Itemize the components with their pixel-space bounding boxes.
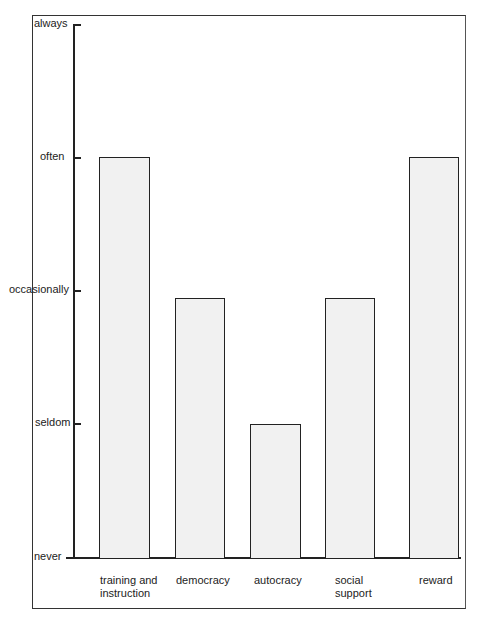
y-tick-seldom	[73, 423, 81, 425]
y-tick-always	[73, 24, 81, 26]
bar-social-support	[325, 298, 375, 558]
bar-reward	[409, 157, 459, 558]
bar-training-and-instruction	[99, 157, 150, 558]
x-label-social-support: social support	[335, 574, 372, 600]
y-label-often: often	[40, 150, 64, 162]
y-label-always: always	[34, 17, 68, 29]
bar-democracy	[175, 298, 225, 558]
y-label-seldom: seldom	[35, 416, 70, 428]
x-label-autocracy: autocracy	[254, 574, 302, 587]
x-label-reward: reward	[419, 574, 453, 587]
y-axis	[73, 24, 75, 559]
chart-frame	[32, 15, 466, 609]
x-label-training-and-instruction: training and instruction	[100, 574, 158, 600]
y-tick-never	[66, 557, 74, 559]
y-label-never: never	[34, 550, 62, 562]
x-label-democracy: democracy	[176, 574, 230, 587]
y-label-occasionally: occasionally	[9, 283, 69, 295]
y-tick-often	[73, 157, 81, 159]
y-tick-occasionally	[73, 290, 81, 292]
bar-autocracy	[250, 424, 301, 558]
